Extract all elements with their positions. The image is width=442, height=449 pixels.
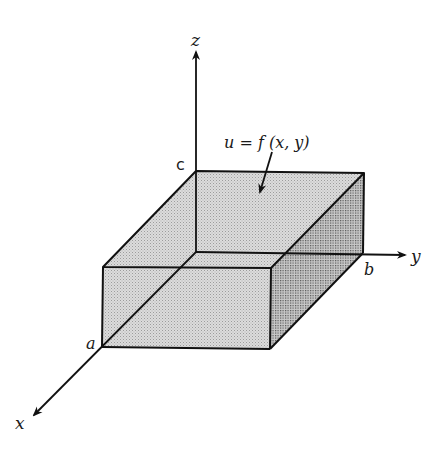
vertex-label-b: b <box>364 260 374 279</box>
vertex-label-a: a <box>86 334 96 353</box>
vertex-label-c: c <box>176 155 185 174</box>
box-front-left-edge <box>102 267 103 347</box>
front-face <box>102 267 271 349</box>
surface-function-label: u = f (x, y) <box>224 133 310 152</box>
x-axis-label: x <box>15 413 25 433</box>
z-axis-label: z <box>190 30 201 50</box>
box-diagram: z y x c b a u = f (x, y) <box>0 0 442 449</box>
y-axis-label: y <box>410 246 421 266</box>
box-front-right-edge <box>270 268 271 349</box>
box-back-right-edge <box>363 173 364 253</box>
